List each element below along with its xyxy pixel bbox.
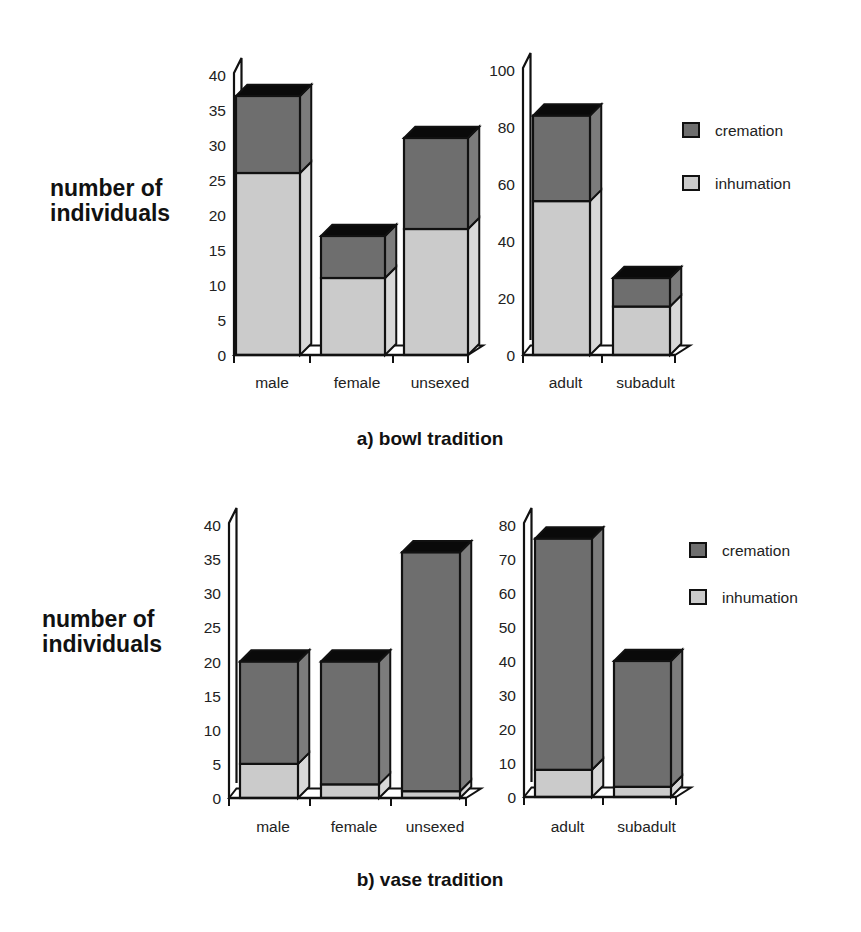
y-tick-label: 15 xyxy=(209,242,226,259)
bar-segment-inhumation xyxy=(613,307,670,355)
bar-segment-side-cremation xyxy=(300,85,311,173)
bar-segment-inhumation xyxy=(236,173,300,355)
legend-label: inhumation xyxy=(722,589,798,606)
y-tick-label: 10 xyxy=(209,277,227,294)
legend: cremationinhumation xyxy=(690,542,798,606)
x-tick-label: unsexed xyxy=(406,818,465,835)
y-tick-label: 40 xyxy=(209,67,227,84)
bar-segment-side-cremation xyxy=(671,650,682,787)
y-tick-label: 20 xyxy=(499,721,517,738)
y-tick-label: 80 xyxy=(499,517,517,534)
bar-segment-side-inhumation xyxy=(468,218,479,355)
y-tick-label: 20 xyxy=(209,207,227,224)
bar-male xyxy=(236,85,311,355)
legend: cremationinhumation xyxy=(683,122,791,192)
bar-unsexed xyxy=(404,127,479,355)
bar-segment-inhumation xyxy=(614,787,671,797)
bar-female xyxy=(321,225,396,355)
y-tick-label: 30 xyxy=(499,687,517,704)
x-tick-label: unsexed xyxy=(411,374,470,391)
y-tick-label: 40 xyxy=(499,653,517,670)
bar-subadult xyxy=(614,650,682,797)
y-axis-label: individuals xyxy=(42,631,162,657)
y-tick-label: 5 xyxy=(217,312,226,329)
bar-top-face xyxy=(402,541,471,552)
bar-segment-inhumation xyxy=(535,770,592,797)
bar-segment-side-cremation xyxy=(460,541,471,791)
y-tick-label: 50 xyxy=(499,619,517,636)
bar-female xyxy=(321,650,390,798)
legend-swatch xyxy=(690,543,706,557)
bar-segment-cremation xyxy=(533,116,590,202)
figure: number of individuals malefemaleunsexed0… xyxy=(0,0,861,932)
y-tick-label: 100 xyxy=(489,62,515,79)
y-tick-label: 30 xyxy=(209,137,227,154)
y-axis-label: number of xyxy=(50,175,163,201)
x-tick-label: adult xyxy=(551,818,585,835)
bar-segment-cremation xyxy=(614,661,671,787)
bar-segment-inhumation xyxy=(404,229,468,355)
y-tick-label: 80 xyxy=(498,119,516,136)
bar-segment-cremation xyxy=(236,96,300,173)
bar-top-face xyxy=(240,650,309,661)
y-tick-label: 25 xyxy=(209,172,226,189)
back-wall xyxy=(524,508,532,797)
bar-segment-side-inhumation xyxy=(300,162,311,355)
bar-segment-cremation xyxy=(321,662,379,785)
bar-segment-side-cremation xyxy=(379,650,390,784)
chart-vase-age: adultsubadult01020304050607080 xyxy=(499,508,691,835)
bar-segment-cremation xyxy=(321,236,385,278)
y-tick-label: 20 xyxy=(204,654,222,671)
bar-subadult xyxy=(613,267,681,355)
panel-title: a) bowl tradition xyxy=(357,428,504,449)
x-tick-label: male xyxy=(256,818,290,835)
bar-segment-inhumation xyxy=(240,764,298,798)
x-tick-label: subadult xyxy=(617,818,676,835)
bar-segment-cremation xyxy=(240,662,298,764)
chart-vase-sex: malefemaleunsexed0510152025303540 xyxy=(204,508,481,835)
y-tick-label: 0 xyxy=(212,790,221,807)
x-tick-label: subadult xyxy=(616,374,675,391)
bar-top-face xyxy=(321,225,396,236)
x-tick-label: female xyxy=(334,374,381,391)
bar-segment-inhumation xyxy=(533,201,590,355)
panel-title: b) vase tradition xyxy=(357,869,504,890)
y-tick-label: 35 xyxy=(209,102,226,119)
y-tick-label: 0 xyxy=(507,789,516,806)
bar-segment-cremation xyxy=(402,552,460,791)
legend-item-inhumation: inhumation xyxy=(683,175,791,192)
legend-label: cremation xyxy=(722,542,790,559)
x-tick-label: adult xyxy=(549,374,583,391)
y-tick-label: 70 xyxy=(499,551,517,568)
back-wall xyxy=(229,508,237,798)
bar-segment-side-cremation xyxy=(590,104,601,201)
legend-swatch xyxy=(683,123,699,137)
bar-segment-side-cremation xyxy=(298,650,309,764)
bar-segment-side-cremation xyxy=(468,127,479,229)
legend-item-inhumation: inhumation xyxy=(690,589,798,606)
legend-item-cremation: cremation xyxy=(690,542,790,559)
bar-top-face xyxy=(535,527,603,538)
chart-bowl-sex: malefemaleunsexed0510152025303540 xyxy=(209,58,483,391)
bar-unsexed xyxy=(402,541,471,798)
bar-top-face xyxy=(613,267,681,278)
bar-adult xyxy=(533,104,601,355)
y-axis-label: individuals xyxy=(50,200,170,226)
bar-adult xyxy=(535,527,603,797)
y-tick-label: 10 xyxy=(204,722,222,739)
y-tick-label: 40 xyxy=(498,233,516,250)
bar-top-face xyxy=(614,650,682,661)
y-tick-label: 40 xyxy=(204,517,222,534)
y-tick-label: 0 xyxy=(506,347,515,364)
y-tick-label: 35 xyxy=(204,551,221,568)
y-tick-label: 10 xyxy=(499,755,517,772)
bar-segment-cremation xyxy=(535,539,592,770)
x-tick-label: female xyxy=(331,818,378,835)
y-axis-label: number of xyxy=(42,606,155,632)
y-tick-label: 60 xyxy=(499,585,517,602)
bar-top-face xyxy=(404,127,479,138)
y-tick-label: 25 xyxy=(204,619,221,636)
x-tick-label: male xyxy=(255,374,289,391)
chart-bowl-age: adultsubadult020406080100 xyxy=(489,53,690,391)
bar-segment-side-inhumation xyxy=(590,190,601,355)
